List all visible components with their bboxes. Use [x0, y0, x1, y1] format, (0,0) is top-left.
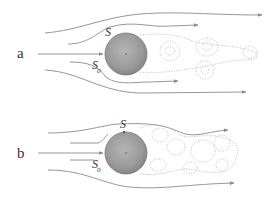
- streamline-arrow: [45, 70, 246, 93]
- separation-point-label: S: [120, 117, 126, 131]
- separation-point-label: S: [105, 25, 111, 39]
- flow-diagram: a S S 0 b: [0, 0, 275, 199]
- stagnation-point-subscript: 0: [97, 166, 101, 174]
- streamline-arrow: [48, 124, 228, 135]
- panel-b: b S S 0: [17, 117, 238, 188]
- streamline-arrow: [45, 13, 262, 33]
- panel-b-label: b: [17, 145, 25, 161]
- panel-b-wake: [140, 125, 238, 174]
- separation-point-marker: [123, 131, 125, 133]
- sphere-center-dot: [125, 152, 127, 154]
- stagnation-point-subscript: 0: [97, 67, 101, 75]
- sphere-center-dot: [125, 53, 127, 55]
- streamline-arrow: [48, 170, 234, 188]
- panel-a-label: a: [17, 45, 24, 61]
- panel-a: a S S 0: [17, 13, 262, 93]
- panel-a-wake: [140, 34, 257, 79]
- panel-a-streamlines: [38, 13, 262, 93]
